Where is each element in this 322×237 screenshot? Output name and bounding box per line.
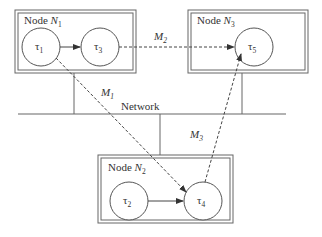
network-bus: Network <box>18 73 286 155</box>
node-n1: Node N1 τ1 τ3 <box>15 10 136 73</box>
message-m3-label: M3 <box>189 128 203 143</box>
node-n2: Node N2 τ2 τ4 <box>98 155 233 223</box>
network-label: Network <box>121 100 160 112</box>
distributed-system-diagram: Network Node N1 τ1 τ3 Node N3 τ5 Node N2… <box>0 0 322 237</box>
message-m2-label: M2 <box>153 30 167 45</box>
node-n3: Node N3 τ5 <box>188 10 308 73</box>
message-m1-label: M1 <box>100 86 114 101</box>
